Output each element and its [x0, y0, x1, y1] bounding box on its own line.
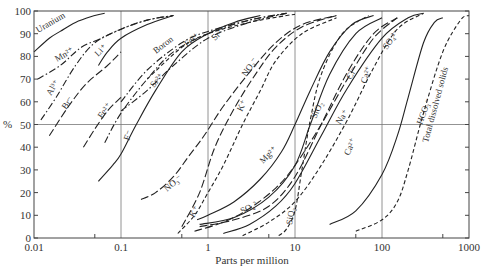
x-tick-label: 10: [290, 241, 302, 253]
label-br: Br⁻: [59, 94, 75, 111]
y-tick-label: 30: [20, 164, 32, 176]
x-tick-label: 1000: [458, 241, 481, 253]
y-tick-label: 20: [20, 187, 32, 199]
label-so4-bot: SO₄²⁻: [239, 197, 263, 216]
y-axis-title: %: [3, 118, 12, 130]
x-axis-title: Parts per million: [215, 254, 289, 266]
y-tick-label: 10: [20, 209, 32, 221]
label-ca-mid: Ca²⁺: [342, 137, 359, 157]
label-k-top: K⁺: [235, 98, 249, 113]
x-tick-label: 0.1: [114, 241, 128, 253]
y-tick-label: 60: [20, 96, 32, 108]
label-fe-top: Fe²⁺: [182, 30, 201, 48]
y-tick-label: 80: [20, 50, 32, 62]
label-no3-bot: NO₃⁻: [162, 172, 185, 193]
label-boron: Boron: [151, 34, 175, 56]
chart: 0102030405060708090100 0.010.11101001000…: [0, 0, 483, 271]
y-tick-label: 50: [20, 119, 32, 131]
curve-sio2-steep-: [279, 16, 369, 236]
x-tick-label: 100: [374, 241, 391, 253]
curve-sr2-: [121, 13, 287, 111]
y-tick-label: 90: [20, 28, 32, 40]
curve-f-: [98, 16, 260, 182]
curve-total-dissolved-solids: [356, 16, 469, 232]
curve-no3-upper-: [182, 16, 337, 227]
label-mg: Mg²⁺: [257, 144, 278, 165]
label-sio2-mid: SiO₂: [309, 100, 325, 120]
label-so4-top: SO₄²⁻: [380, 27, 401, 51]
x-tick-label: 0.01: [24, 241, 43, 253]
label-fe-mid: Fe²⁺: [95, 101, 113, 120]
y-tick-label: 40: [20, 141, 32, 153]
label-cl: Cl⁻: [344, 64, 359, 81]
x-axis-ticks: 0.010.11101001000: [24, 234, 480, 253]
y-tick-label: 100: [15, 5, 32, 17]
label-sr: Sr²⁺: [148, 71, 166, 89]
y-tick-label: 70: [20, 73, 32, 85]
x-tick-label: 1: [205, 241, 211, 253]
label-na: Na⁺: [333, 108, 350, 126]
label-k-bot: K⁺: [187, 204, 201, 219]
label-no3-top: NO₃⁻: [239, 55, 259, 78]
label-li: Li⁺: [92, 42, 108, 58]
label-mn: Mn²⁺: [53, 45, 75, 64]
curve-labels: Uranium Mn²⁺ Li⁺ Boron Fe²⁺ Sr²⁺ Al³⁺ Br…: [34, 10, 450, 225]
curve-br-: [49, 52, 121, 136]
